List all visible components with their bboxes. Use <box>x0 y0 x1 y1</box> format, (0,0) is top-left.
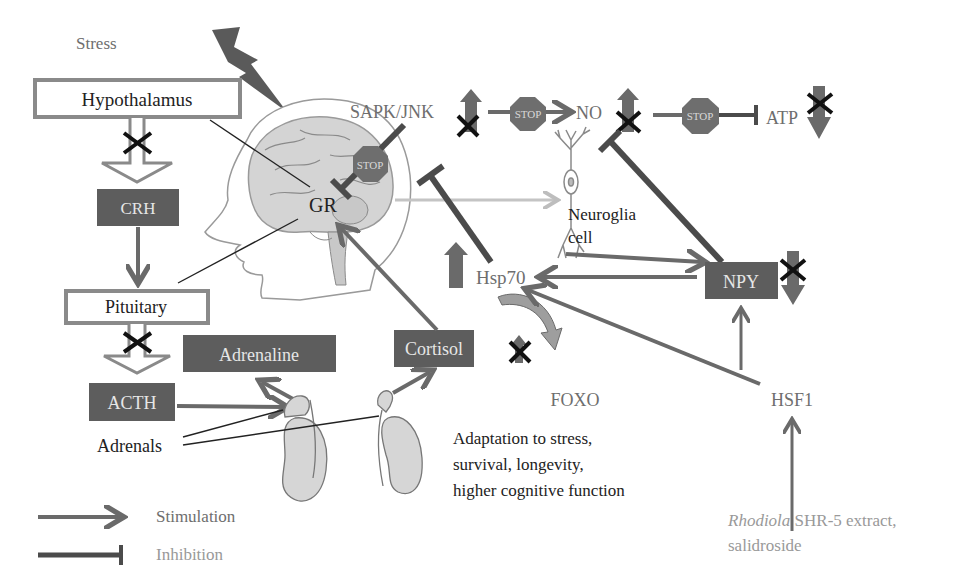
neuroglia-label-line1: Neuroglia <box>568 205 636 224</box>
npy-label: NPY <box>723 272 759 292</box>
acth-label: ACTH <box>108 393 157 413</box>
stop-sign-icon: STOP <box>510 97 546 131</box>
hsp70-label: Hsp70 <box>476 267 526 288</box>
svg-text:STOP: STOP <box>687 110 714 122</box>
outcome-line2: survival, longevity, <box>453 455 584 474</box>
hollow-arrow-hypothalamus-crh <box>102 118 172 182</box>
kidneys-illustration <box>283 391 423 501</box>
rhodiola-label-line2: salidroside <box>728 536 802 555</box>
arrow-adrenals-adrenaline <box>262 382 293 399</box>
outcome-line1: Adaptation to stress, <box>453 429 592 448</box>
no-up-arrow-icon <box>617 88 639 132</box>
connector-adrenals-right <box>183 416 379 445</box>
hollow-arrow-pituitary-acth <box>104 324 170 373</box>
legend-stimulation-label: Stimulation <box>156 507 236 526</box>
hsf1-label: HSF1 <box>771 390 813 410</box>
sapk-jnk-label: SAPK/JNK <box>350 102 434 122</box>
stress-label: Stress <box>76 34 117 53</box>
legend: Stimulation Inhibition <box>38 507 236 565</box>
legend-inhibition-label: Inhibition <box>156 545 224 564</box>
foxo-label: FOXO <box>550 390 599 410</box>
hypothalamus-label: Hypothalamus <box>82 89 193 110</box>
gr-label: GR <box>309 194 337 216</box>
stop-sign-icon: STOP <box>682 98 719 134</box>
adrenals-label: Adrenals <box>97 436 162 456</box>
hsp70-up-arrow-icon <box>444 242 468 288</box>
atp-label: ATP <box>766 108 798 128</box>
svg-text:STOP: STOP <box>515 108 542 120</box>
arrow-adrenals-cortisol <box>393 372 430 393</box>
arrow-hsf1-hsp70 <box>528 290 760 384</box>
stop-sign-icon: STOP <box>353 146 388 182</box>
rhodiola-rest: SHR-5 extract, <box>790 511 896 530</box>
curved-arrow-hsp70-foxo <box>498 294 562 350</box>
stress-pathway-diagram: Stress Hypothalamus CRH Pituitary ACTH A… <box>0 0 967 588</box>
inhibition-npy-no <box>610 141 722 262</box>
rhodiola-italic: Rhodiola <box>727 511 790 530</box>
inhibition-bar <box>418 166 443 184</box>
no-label: NO <box>576 103 602 123</box>
adrenaline-label: Adrenaline <box>219 345 299 365</box>
rhodiola-label-line1: Rhodiola SHR-5 extract, <box>727 511 897 530</box>
pituitary-label: Pituitary <box>105 297 167 317</box>
crh-label: CRH <box>121 199 156 218</box>
neuroglia-label-line2: cell <box>568 228 593 247</box>
svg-text:STOP: STOP <box>357 159 384 171</box>
cortisol-label: Cortisol <box>405 339 463 359</box>
arrow-neuroglia-npy <box>566 254 702 262</box>
outcome-line3: higher cognitive function <box>453 481 625 500</box>
arrow-acth-adrenals <box>177 406 284 407</box>
